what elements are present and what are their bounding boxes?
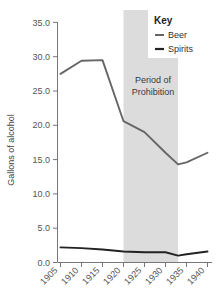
y-axis-title: Gallons of alcohol [6, 114, 16, 186]
y-tick-label: 15.0 [32, 155, 50, 165]
annotation-line-1: Period of [135, 75, 172, 85]
y-tick-label: 25.0 [32, 86, 50, 96]
chart-legend: Key Beer Spirits [148, 10, 214, 58]
chart-svg: 0.0 5.0 10.0 15.0 20.0 25.0 30.0 35.0 Ga… [0, 0, 220, 301]
legend-label-beer: Beer [168, 30, 187, 40]
y-tick-label: 10.0 [32, 189, 50, 199]
legend-label-spirits: Spirits [168, 44, 194, 54]
y-tick-label: 20.0 [32, 120, 50, 130]
alcohol-consumption-chart: 0.0 5.0 10.0 15.0 20.0 25.0 30.0 35.0 Ga… [0, 0, 220, 301]
y-tick-label: 30.0 [32, 52, 50, 62]
y-tick-label: 35.0 [32, 18, 50, 28]
annotation-line-2: Prohibition [132, 87, 175, 97]
y-tick-label: 0.0 [37, 258, 50, 268]
y-tick-label: 5.0 [37, 223, 50, 233]
legend-title: Key [154, 15, 173, 26]
